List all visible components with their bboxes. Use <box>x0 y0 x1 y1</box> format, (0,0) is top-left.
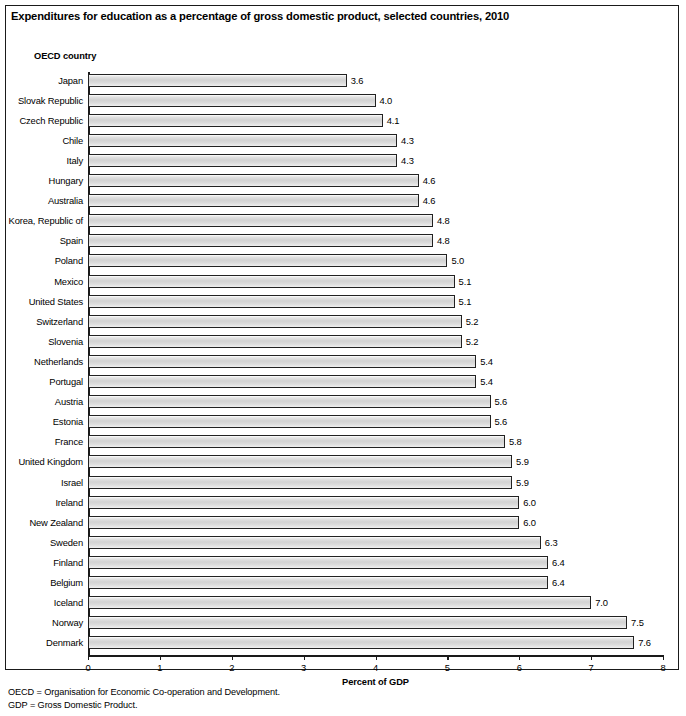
bar-row: 5.8 <box>88 435 663 448</box>
category-label: Norway <box>0 616 83 629</box>
x-axis-tick-label: 6 <box>507 662 531 673</box>
category-label: Finland <box>0 556 83 569</box>
bar-row: 7.5 <box>88 616 663 629</box>
category-label: Israel <box>0 476 83 489</box>
bar-value-label: 7.5 <box>631 616 644 629</box>
bar-value-label: 6.0 <box>523 496 536 509</box>
bar-row: 5.9 <box>88 476 663 489</box>
category-label: Slovak Republic <box>0 94 83 107</box>
bar-row: 5.6 <box>88 415 663 428</box>
bar-row: 7.6 <box>88 636 663 649</box>
bar-value-label: 5.1 <box>459 295 472 308</box>
bar-row: 5.1 <box>88 295 663 308</box>
category-label: Netherlands <box>0 355 83 368</box>
category-label: Slovenia <box>0 335 83 348</box>
category-label: Iceland <box>0 596 83 609</box>
bar[interactable] <box>88 536 541 549</box>
bar[interactable] <box>88 616 627 629</box>
category-label: Italy <box>0 154 83 167</box>
bar-value-label: 5.8 <box>509 435 522 448</box>
bar[interactable] <box>88 516 519 529</box>
category-label: United Kingdom <box>0 455 83 468</box>
bar[interactable] <box>88 435 505 448</box>
bar-value-label: 5.0 <box>451 254 464 267</box>
bar[interactable] <box>88 94 376 107</box>
bar[interactable] <box>88 355 476 368</box>
category-label: Switzerland <box>0 315 83 328</box>
bar[interactable] <box>88 496 519 509</box>
x-axis-tick-label: 1 <box>148 662 172 673</box>
bar[interactable] <box>88 154 397 167</box>
bar-value-label: 5.1 <box>459 275 472 288</box>
bar[interactable] <box>88 295 455 308</box>
category-label: Spain <box>0 234 83 247</box>
x-axis-tick <box>376 655 377 660</box>
x-axis-tick <box>519 655 520 660</box>
bar-value-label: 4.3 <box>401 134 414 147</box>
x-axis-tick-label: 7 <box>579 662 603 673</box>
bar-row: 6.3 <box>88 536 663 549</box>
bar[interactable] <box>88 596 591 609</box>
y-axis-group-label: OECD country <box>34 51 96 61</box>
x-axis-tick <box>663 655 664 660</box>
bar[interactable] <box>88 636 634 649</box>
bar-value-label: 4.8 <box>437 234 450 247</box>
bar[interactable] <box>88 114 383 127</box>
bar-value-label: 5.9 <box>516 476 529 489</box>
bar[interactable] <box>88 174 419 187</box>
bar-row: 6.4 <box>88 576 663 589</box>
bar-value-label: 4.1 <box>387 114 400 127</box>
x-axis-tick <box>232 655 233 660</box>
bar-value-label: 4.0 <box>380 94 393 107</box>
bar-row: 5.2 <box>88 335 663 348</box>
bar[interactable] <box>88 74 347 87</box>
bar-row: 5.9 <box>88 455 663 468</box>
bar-value-label: 3.6 <box>351 74 364 87</box>
bar-value-label: 4.3 <box>401 154 414 167</box>
bar-value-label: 6.4 <box>552 556 565 569</box>
bar-value-label: 5.2 <box>466 335 479 348</box>
bar[interactable] <box>88 395 491 408</box>
bar[interactable] <box>88 275 455 288</box>
category-label: Australia <box>0 194 83 207</box>
x-axis-tick-label: 2 <box>220 662 244 673</box>
page-title: Expenditures for education as a percenta… <box>11 9 661 23</box>
bar-value-label: 6.4 <box>552 576 565 589</box>
bar[interactable] <box>88 455 512 468</box>
bar-row: 6.0 <box>88 516 663 529</box>
category-label: Czech Republic <box>0 114 83 127</box>
bar[interactable] <box>88 315 462 328</box>
bar-row: 5.2 <box>88 315 663 328</box>
footnote-gdp: GDP = Gross Domestic Product. <box>8 699 280 712</box>
x-axis-tick <box>160 655 161 660</box>
x-axis-tick-label: 3 <box>292 662 316 673</box>
bar[interactable] <box>88 134 397 147</box>
bar-row: 4.8 <box>88 214 663 227</box>
plot-area: 3.64.04.14.34.34.64.64.84.85.05.15.15.25… <box>88 72 663 655</box>
category-label: Hungary <box>0 174 83 187</box>
bar[interactable] <box>88 415 491 428</box>
category-label: New Zealand <box>0 516 83 529</box>
x-axis-tick <box>591 655 592 660</box>
bar[interactable] <box>88 214 433 227</box>
bar-row: 4.3 <box>88 134 663 147</box>
bar[interactable] <box>88 254 447 267</box>
bar[interactable] <box>88 194 419 207</box>
bar[interactable] <box>88 476 512 489</box>
bar[interactable] <box>88 576 548 589</box>
bar-row: 3.6 <box>88 74 663 87</box>
category-label: Austria <box>0 395 83 408</box>
bar[interactable] <box>88 234 433 247</box>
category-label: Estonia <box>0 415 83 428</box>
bar-value-label: 5.6 <box>495 395 508 408</box>
category-label: Portugal <box>0 375 83 388</box>
x-axis-tick-label: 0 <box>76 662 100 673</box>
category-label: United States <box>0 295 83 308</box>
bar-value-label: 4.6 <box>423 174 436 187</box>
bar-row: 4.8 <box>88 234 663 247</box>
bar[interactable] <box>88 556 548 569</box>
bar[interactable] <box>88 375 476 388</box>
bar-row: 6.4 <box>88 556 663 569</box>
bar[interactable] <box>88 335 462 348</box>
footnotes: OECD = Organisation for Economic Co-oper… <box>8 686 280 711</box>
